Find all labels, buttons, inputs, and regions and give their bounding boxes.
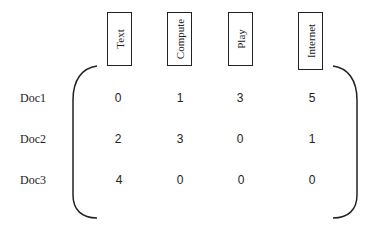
row-label-doc3: Doc3 bbox=[20, 173, 46, 188]
matrix-cell: 3 bbox=[170, 132, 190, 146]
matrix-cell: 5 bbox=[302, 91, 322, 105]
right-bracket bbox=[333, 66, 357, 218]
matrix-cell: 0 bbox=[231, 173, 251, 187]
left-bracket bbox=[73, 66, 97, 218]
matrix-cell: 0 bbox=[170, 173, 190, 187]
matrix-cell: 0 bbox=[108, 91, 128, 105]
matrix-cell: 3 bbox=[230, 91, 250, 105]
matrix-cell: 0 bbox=[302, 173, 322, 187]
matrix-cell: 4 bbox=[109, 173, 129, 187]
matrix-cell: 1 bbox=[302, 132, 322, 146]
matrix-brackets bbox=[0, 0, 378, 230]
row-label-doc2: Doc2 bbox=[20, 132, 46, 147]
row-label-doc1: Doc1 bbox=[20, 91, 46, 106]
matrix-cell: 1 bbox=[170, 91, 190, 105]
matrix-cell: 0 bbox=[230, 132, 250, 146]
matrix-cell: 2 bbox=[108, 132, 128, 146]
